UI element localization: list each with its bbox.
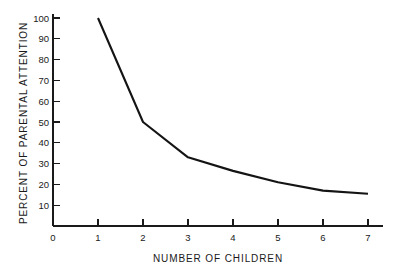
y-tick-label-50: 50 [38, 117, 49, 128]
x-tick-label-2: 2 [140, 232, 145, 243]
x-tick-label-0: 0 [50, 232, 55, 243]
y-tick-label-90: 90 [38, 33, 49, 44]
y-tick-label-100: 100 [33, 13, 49, 24]
y-tick-label-70: 70 [38, 75, 49, 86]
y-axis-title: PERCENT OF PARENTAL ATTENTION [18, 22, 29, 224]
x-tick-label-7: 7 [365, 232, 370, 243]
x-tick-label-6: 6 [320, 232, 325, 243]
x-tick-label-4: 4 [230, 232, 235, 243]
y-tick-label-60: 60 [38, 96, 49, 107]
x-tick-label-1: 1 [95, 232, 100, 243]
y-tick-label-10: 10 [38, 200, 49, 211]
data-series-line [98, 18, 368, 194]
chart-figure: PERCENT OF PARENTAL ATTENTION 100 90 80 … [0, 0, 399, 271]
line-chart: PERCENT OF PARENTAL ATTENTION 100 90 80 … [0, 0, 399, 271]
y-tick-label-80: 80 [38, 54, 49, 65]
y-tick-label-30: 30 [38, 158, 49, 169]
y-tick-label-40: 40 [38, 137, 49, 148]
x-tick-label-5: 5 [275, 232, 280, 243]
x-axis-title: NUMBER OF CHILDREN [153, 253, 283, 264]
x-tick-label-3: 3 [185, 232, 190, 243]
y-tick-label-20: 20 [38, 179, 49, 190]
